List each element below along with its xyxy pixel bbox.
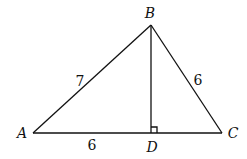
vertex-label-d: D bbox=[145, 139, 157, 155]
side-bc bbox=[151, 25, 222, 133]
vertex-label-b: B bbox=[144, 5, 155, 21]
vertex-label-a: A bbox=[15, 125, 27, 141]
diagram-canvas: B A C D 7 6 6 bbox=[0, 0, 247, 159]
length-label-ab: 7 bbox=[76, 73, 85, 89]
right-angle-marker bbox=[151, 127, 157, 133]
side-ab bbox=[33, 25, 151, 133]
length-label-ad: 6 bbox=[88, 137, 97, 153]
triangle-diagram: B A C D 7 6 6 bbox=[0, 0, 247, 159]
vertex-label-c: C bbox=[228, 125, 239, 141]
length-label-bc: 6 bbox=[194, 72, 203, 88]
